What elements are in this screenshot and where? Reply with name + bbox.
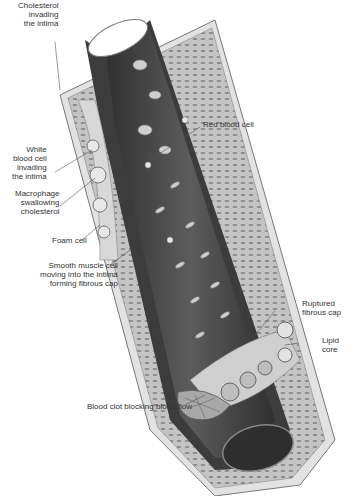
label-blood-clot: Blood clot blocking blood flow xyxy=(87,402,192,411)
label-macrophage: Macrophage swallowing cholesterol xyxy=(15,189,59,216)
label-white-blood-cell: White blood cell invading the intima xyxy=(12,145,47,181)
label-cholesterol-invading-intima: Cholesterol invading the intima xyxy=(18,1,58,28)
artery-illustration xyxy=(0,0,359,496)
label-lipid-core: Lipid core xyxy=(322,336,339,354)
label-ruptured-fibrous-cap: Ruptured fibrous cap xyxy=(302,299,341,317)
label-smooth-muscle-cell: Smooth muscle cell moving into the intim… xyxy=(40,261,118,288)
label-red-blood-cell: Red blood cell xyxy=(203,120,254,129)
label-foam-cell: Foam cell xyxy=(52,236,87,245)
